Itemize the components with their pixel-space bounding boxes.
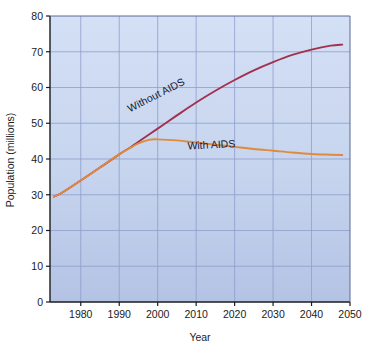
y-tick-label: 40	[31, 153, 43, 165]
y-tick-label: 80	[31, 10, 43, 22]
x-tick-label: 2020	[223, 308, 247, 320]
y-axis-title: Population (millions)	[4, 113, 16, 208]
x-tick-label: 2000	[146, 308, 170, 320]
x-tick-label: 2040	[300, 308, 324, 320]
series-annotation: With AIDS	[187, 137, 235, 151]
x-tick-label: 1980	[69, 308, 93, 320]
x-tick-label: 2050	[338, 308, 362, 320]
x-axis-title: Year	[189, 331, 211, 343]
y-tick-label: 30	[31, 189, 43, 201]
x-tick-label: 1990	[108, 308, 132, 320]
y-tick-label: 10	[31, 260, 43, 272]
y-tick-label: 70	[31, 46, 43, 58]
x-tick-label: 2010	[184, 308, 208, 320]
y-tick-label: 0	[37, 296, 43, 308]
x-tick-label: 2030	[261, 308, 285, 320]
y-tick-label: 60	[31, 81, 43, 93]
chart-container: 01020304050607080 1980199020002010202020…	[0, 0, 372, 349]
population-projection-line-chart: 01020304050607080 1980199020002010202020…	[0, 0, 372, 349]
y-tick-label: 20	[31, 224, 43, 236]
y-tick-label: 50	[31, 117, 43, 129]
